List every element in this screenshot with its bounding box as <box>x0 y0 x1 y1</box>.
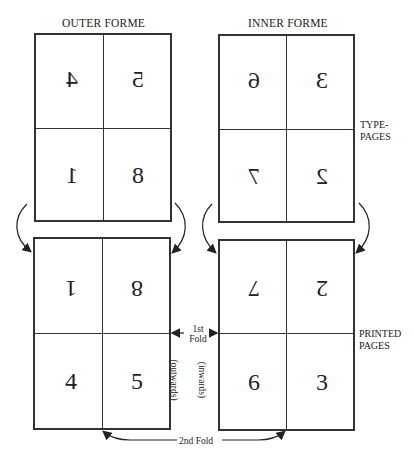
second-fold-arrow-left <box>104 432 177 440</box>
second-fold-arrow-right <box>222 432 284 440</box>
arrows-overlay <box>0 0 414 459</box>
curve-arrow-inner-right <box>357 203 369 252</box>
curve-arrow-outer-right <box>173 203 185 252</box>
curve-arrow-outer-left <box>17 204 30 251</box>
curve-arrow-inner-left <box>203 204 215 252</box>
